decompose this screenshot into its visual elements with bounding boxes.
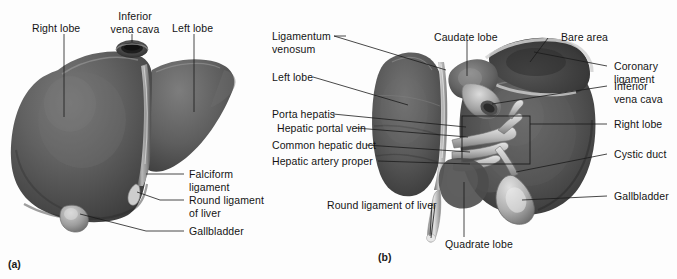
panel-tag-a: (a) — [8, 258, 21, 270]
label-inferior-vena-cava-a: Inferior vena cava — [105, 10, 165, 35]
label-porta-hepatis-b: Porta hepatis — [272, 108, 335, 121]
label-right-lobe-a: Right lobe — [32, 22, 80, 35]
label-ligamentum-venosum-b: Ligamentum venosum — [272, 30, 331, 55]
label-hepatic-portal-vein-b: Hepatic portal vein — [277, 122, 366, 135]
label-left-lobe-a: Left lobe — [172, 22, 213, 35]
panel-tag-b: (b) — [378, 251, 391, 263]
label-gallbladder-a: Gallbladder — [189, 225, 244, 238]
label-left-lobe-b: Left lobe — [272, 71, 313, 84]
label-cystic-duct-b: Cystic duct — [614, 148, 666, 161]
label-round-ligament-of-liver-a: Round ligament of liver — [189, 194, 264, 219]
inferior-vena-cava-shape-a — [116, 40, 148, 58]
label-bare-area-b: Bare area — [561, 31, 608, 44]
label-common-hepatic-duct-b: Common hepatic duct — [272, 139, 376, 152]
label-round-ligament-of-liver-b: Round ligament of liver — [327, 199, 437, 212]
left-lobe-shape-a — [142, 59, 234, 172]
label-caudate-lobe-b: Caudate lobe — [434, 31, 498, 44]
label-quadrate-lobe-b: Quadrate lobe — [445, 238, 513, 251]
label-falciform-ligament-a: Falciform ligament — [189, 168, 233, 193]
label-right-lobe-b: Right lobe — [614, 118, 662, 131]
liver-anatomy-figure: Right lobe Inferior vena cava Left lobe … — [0, 0, 677, 279]
label-hepatic-artery-proper-b: Hepatic artery proper — [272, 155, 373, 168]
label-gallbladder-b: Gallbladder — [614, 190, 669, 203]
label-inferior-vena-cava-b: Inferior vena cava — [614, 80, 663, 105]
